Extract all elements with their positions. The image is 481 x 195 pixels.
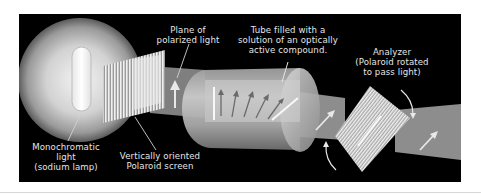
output-beam: [395, 104, 461, 160]
label-light-source: Monochromatic light (sodium lamp): [27, 142, 105, 172]
label-analyzer: Analyzer (Polaroid rotated to pass light…: [350, 47, 434, 77]
label-sample-tube: Tube filled with a solution of an optica…: [236, 25, 340, 55]
analyzer-polaroid-icon: [335, 86, 410, 172]
sodium-lamp-icon: [72, 47, 91, 111]
label-polarized-plane: Plane of polarized light: [148, 25, 228, 45]
rotation-arrow-icon: [326, 145, 336, 170]
label-polarizer: Vertically oriented Polaroid screen: [114, 151, 206, 171]
sample-tube-icon: [182, 62, 320, 152]
